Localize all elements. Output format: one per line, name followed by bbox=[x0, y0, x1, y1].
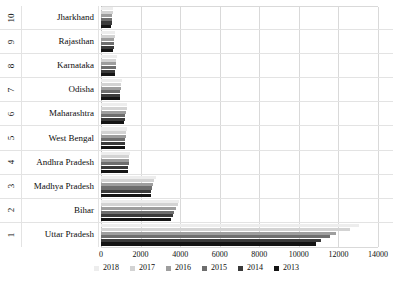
legend-swatch-icon bbox=[130, 266, 135, 271]
bar-2016 bbox=[101, 62, 116, 65]
bar-2014 bbox=[101, 190, 151, 193]
bar-group bbox=[101, 7, 393, 28]
legend-item-2018[interactable]: 2018 bbox=[94, 264, 119, 272]
chart-row: 9Rajasthan bbox=[0, 30, 393, 54]
category-label-cell: Bihar bbox=[22, 199, 99, 222]
legend-swatch-icon bbox=[94, 266, 99, 271]
bar-2014 bbox=[101, 239, 321, 242]
rank-cell: 3 bbox=[0, 175, 22, 198]
bar-2013 bbox=[101, 25, 111, 28]
chart-row: 2Bihar bbox=[0, 199, 393, 223]
rank-cell: 6 bbox=[0, 102, 22, 125]
x-tick-label: 6000 bbox=[212, 248, 228, 261]
bar-2015 bbox=[101, 211, 174, 214]
bar-group bbox=[101, 55, 393, 76]
bar-2013 bbox=[101, 121, 124, 124]
legend-item-2013[interactable]: 2013 bbox=[274, 264, 299, 272]
rank-cell: 7 bbox=[0, 78, 22, 101]
rank-cell: 2 bbox=[0, 199, 22, 222]
chart-row: 4Andhra Pradesh bbox=[0, 151, 393, 175]
category-label: Uttar Pradesh bbox=[45, 230, 94, 239]
bar-2018 bbox=[101, 152, 130, 155]
bar-2018 bbox=[101, 55, 117, 58]
rank-label: 9 bbox=[6, 39, 15, 44]
category-label-cell: Odisha bbox=[22, 78, 99, 101]
bar-group bbox=[101, 176, 393, 197]
rank-label: 1 bbox=[6, 233, 15, 238]
x-tick-label: 0 bbox=[99, 248, 103, 261]
rank-cell: 5 bbox=[0, 126, 22, 149]
bar-2014 bbox=[101, 142, 125, 145]
bar-2017 bbox=[101, 131, 126, 134]
legend-label: 2015 bbox=[211, 264, 227, 272]
bar-2015 bbox=[101, 114, 125, 117]
bar-2018 bbox=[101, 31, 115, 34]
chart-row: 6Maharashtra bbox=[0, 102, 393, 126]
bar-2017 bbox=[101, 107, 127, 110]
rank-label: 5 bbox=[6, 136, 15, 141]
category-label-cell: Maharashtra bbox=[22, 102, 99, 125]
x-tick-label: 10000 bbox=[289, 248, 309, 261]
bar-2013 bbox=[101, 146, 125, 149]
x-tick-label: 12000 bbox=[328, 248, 348, 261]
bar-2014 bbox=[101, 94, 120, 97]
bar-2015 bbox=[101, 235, 330, 238]
bar-2018 bbox=[101, 127, 127, 130]
bar-2017 bbox=[101, 83, 121, 86]
bar-group bbox=[101, 103, 393, 124]
category-label: West Bengal bbox=[48, 134, 94, 143]
category-label-cell: Andhra Pradesh bbox=[22, 151, 99, 174]
rank-cell: 10 bbox=[0, 6, 22, 29]
rank-cell: 1 bbox=[0, 223, 22, 247]
rank-label: 2 bbox=[6, 208, 15, 213]
bar-2018 bbox=[101, 176, 156, 179]
bar-2016 bbox=[101, 87, 121, 90]
chart-row: 3Madhya Pradesh bbox=[0, 175, 393, 199]
chart-row: 1Uttar Pradesh bbox=[0, 223, 393, 247]
bar-2013 bbox=[101, 170, 128, 173]
legend-item-2015[interactable]: 2015 bbox=[202, 264, 227, 272]
bar-2018 bbox=[101, 224, 359, 227]
bar-group bbox=[101, 31, 393, 52]
category-label-cell: Karnataka bbox=[22, 54, 99, 77]
x-axis-tick-labels: 02000400060008000100001200014000 bbox=[0, 248, 393, 261]
chart-rows: 10Jharkhand9Rajasthan8Karnataka7Odisha6M… bbox=[0, 6, 393, 247]
bar-2013 bbox=[101, 73, 115, 76]
chart-row: 10Jharkhand bbox=[0, 6, 393, 30]
x-tick-label: 4000 bbox=[172, 248, 188, 261]
legend-item-2014[interactable]: 2014 bbox=[238, 264, 263, 272]
bar-2014 bbox=[101, 46, 114, 49]
x-tick-label: 8000 bbox=[251, 248, 267, 261]
bar-2016 bbox=[101, 232, 336, 235]
legend-swatch-icon bbox=[274, 266, 279, 271]
legend-item-2017[interactable]: 2017 bbox=[130, 264, 155, 272]
bar-2013 bbox=[101, 49, 113, 52]
category-label-cell: Madhya Pradesh bbox=[22, 175, 99, 198]
legend-label: 2017 bbox=[139, 264, 155, 272]
legend-label: 2018 bbox=[103, 264, 119, 272]
bar-2014 bbox=[101, 118, 125, 121]
legend-swatch-icon bbox=[202, 266, 207, 271]
bar-2017 bbox=[101, 179, 154, 182]
rank-label: 8 bbox=[6, 63, 15, 68]
bar-2017 bbox=[101, 203, 178, 206]
bar-2013 bbox=[101, 218, 171, 221]
bar-2013 bbox=[101, 242, 316, 245]
bar-2015 bbox=[101, 66, 116, 69]
rank-label: 7 bbox=[6, 88, 15, 93]
bar-2013 bbox=[101, 97, 120, 100]
legend-item-2016[interactable]: 2016 bbox=[166, 264, 191, 272]
chart-row: 7Odisha bbox=[0, 78, 393, 102]
rank-label: 3 bbox=[6, 184, 15, 189]
rank-cell: 9 bbox=[0, 30, 22, 53]
chart-legend: 201820172016201520142013 bbox=[0, 264, 393, 272]
bar-2017 bbox=[101, 11, 113, 14]
bar-group bbox=[101, 127, 393, 148]
bar-2017 bbox=[101, 59, 116, 62]
x-tick-label: 14000 bbox=[368, 248, 388, 261]
bar-group bbox=[101, 79, 393, 100]
chart-row: 8Karnataka bbox=[0, 54, 393, 78]
bar-2016 bbox=[101, 183, 153, 186]
rank-label: 4 bbox=[6, 160, 15, 165]
rank-label: 10 bbox=[6, 13, 15, 22]
